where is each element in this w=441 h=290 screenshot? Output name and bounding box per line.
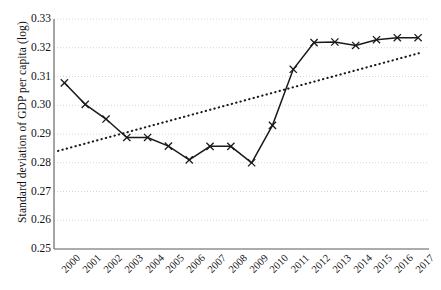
chart-figure: Standard deviation of GDP per capita (lo… [0, 0, 441, 290]
plot-area [0, 0, 441, 290]
data-point-marker [290, 66, 297, 73]
data-point-marker [269, 122, 276, 129]
data-point-marker [102, 115, 109, 122]
data-point-marker [61, 79, 68, 86]
data-line-series [64, 38, 418, 163]
trend-line-series [58, 53, 421, 151]
grid-lines [54, 19, 429, 220]
data-point-markers [61, 34, 422, 166]
data-point-marker [82, 101, 89, 108]
data-point-marker [165, 142, 172, 149]
